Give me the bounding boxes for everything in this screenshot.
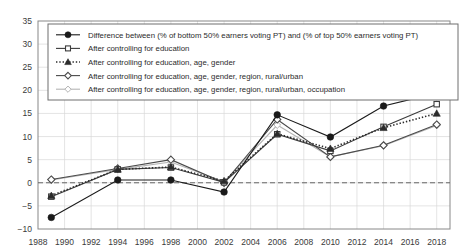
y-axis-tick-labels: −10−505101520253035: [18, 16, 33, 234]
series-2: [49, 102, 440, 200]
chart-legend: Difference between (% of bottom 50% earn…: [48, 24, 458, 100]
series-3: [48, 110, 441, 199]
data-point-marker: [380, 142, 387, 149]
legend-item-label: After controlling for education, age, ge…: [88, 72, 303, 81]
data-series-layer: [48, 90, 441, 221]
legend-item-4: After controlling for education, age, ge…: [56, 72, 303, 81]
x-tick-label: 1994: [108, 237, 127, 247]
y-tick-label: 5: [27, 155, 32, 165]
legend-item-label: After controlling for education, age, ge…: [88, 58, 236, 67]
legend-item-1: Difference between (% of bottom 50% earn…: [56, 31, 418, 40]
data-point-marker: [274, 112, 281, 119]
legend-item-label: After controlling for education: [88, 44, 189, 53]
x-tick-label: 2008: [294, 237, 313, 247]
data-point-marker: [48, 176, 55, 183]
line-chart: −10−505101520253035 19881990199219941996…: [0, 0, 467, 252]
data-point-marker: [65, 32, 71, 38]
x-tick-label: 1988: [29, 237, 48, 247]
x-tick-label: 2010: [321, 237, 340, 247]
series-1: [48, 90, 440, 221]
x-axis-tick-labels: 1988199019921994199619982000200220042006…: [29, 237, 447, 247]
data-point-marker: [221, 189, 228, 196]
series-5: [48, 122, 440, 186]
data-point-marker: [114, 177, 121, 184]
y-tick-label: −10: [18, 224, 33, 234]
x-tick-label: 2002: [215, 237, 234, 247]
data-point-marker: [327, 134, 334, 141]
legend-item-label: After controlling for education, age, ge…: [88, 85, 345, 94]
data-point-marker: [168, 177, 175, 184]
x-tick-label: 2012: [348, 237, 367, 247]
legend-item-5: After controlling for education, age, ge…: [56, 85, 345, 94]
x-tick-label: 1992: [82, 237, 101, 247]
x-tick-label: 2016: [401, 237, 420, 247]
data-point-marker: [66, 46, 71, 51]
x-tick-label: 1996: [135, 237, 154, 247]
x-tick-label: 1990: [55, 237, 74, 247]
y-tick-label: 20: [23, 85, 33, 95]
y-tick-label: 15: [23, 108, 33, 118]
y-tick-label: −5: [22, 201, 32, 211]
chart-container: −10−505101520253035 19881990199219941996…: [0, 0, 467, 252]
y-tick-label: 25: [23, 62, 33, 72]
x-tick-label: 2000: [188, 237, 207, 247]
x-tick-label: 2018: [427, 237, 446, 247]
data-point-marker: [380, 103, 387, 110]
y-tick-label: 30: [23, 39, 33, 49]
data-point-marker: [434, 102, 439, 107]
y-tick-label: 0: [27, 178, 32, 188]
data-point-marker: [433, 110, 440, 116]
y-tick-label: 10: [23, 132, 33, 142]
y-tick-label: 35: [23, 16, 33, 26]
x-tick-label: 1998: [161, 237, 180, 247]
x-tick-label: 2004: [241, 237, 260, 247]
legend-item-label: Difference between (% of bottom 50% earn…: [88, 31, 418, 40]
x-tick-label: 2006: [268, 237, 287, 247]
x-tick-label: 2014: [374, 237, 393, 247]
data-point-marker: [433, 121, 440, 128]
data-point-marker: [48, 214, 55, 221]
